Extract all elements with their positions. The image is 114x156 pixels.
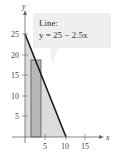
callout-equation: y = 25 − 2.5x — [39, 30, 88, 40]
y-tick-20: 20 — [11, 51, 19, 60]
x-axis-arrow-icon — [99, 135, 104, 139]
callout: Line: y = 25 − 2.5x — [33, 13, 111, 64]
y-tick-5: 5 — [15, 112, 19, 121]
chart: Line: y = 25 − 2.5x y 25 20 15 10 5 x 5 … — [0, 0, 114, 156]
x-tick-10: 10 — [61, 142, 69, 151]
x-tick-15: 15 — [81, 142, 89, 151]
y-axis-label: y — [21, 2, 26, 11]
x-tick-5: 5 — [43, 142, 47, 151]
callout-title: Line: — [39, 18, 58, 28]
x-axis-label: x — [105, 133, 110, 142]
y-tick-10: 10 — [11, 92, 19, 101]
y-tick-25: 25 — [11, 30, 19, 39]
y-tick-15: 15 — [11, 71, 19, 80]
